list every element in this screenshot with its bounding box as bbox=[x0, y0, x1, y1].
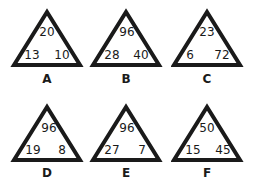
triangle-left-number: 27 bbox=[100, 144, 124, 156]
triangle-label: F bbox=[197, 167, 217, 179]
triangle-left-number: 13 bbox=[20, 49, 44, 61]
triangle-right-number: 8 bbox=[50, 144, 74, 156]
triangle-left-number: 28 bbox=[100, 49, 124, 61]
triangle-puzzle-c: 23 6 72 C bbox=[171, 0, 257, 94]
triangle-right-number: 72 bbox=[210, 49, 234, 61]
triangle-puzzle-f: 50 15 45 F bbox=[171, 95, 257, 189]
triangle-left-number: 6 bbox=[178, 49, 202, 61]
triangle-top-number: 96 bbox=[115, 26, 139, 38]
triangle-top-number: 96 bbox=[37, 122, 61, 134]
triangle-puzzle-a: 20 13 10 A bbox=[0, 0, 86, 94]
triangle-top-number: 20 bbox=[35, 26, 59, 38]
triangle-label: A bbox=[37, 73, 57, 85]
triangle-top-number: 96 bbox=[115, 122, 139, 134]
triangle-top-number: 50 bbox=[195, 122, 219, 134]
triangle-top-number: 23 bbox=[195, 26, 219, 38]
triangle-right-number: 40 bbox=[129, 49, 153, 61]
triangle-left-number: 19 bbox=[21, 144, 45, 156]
triangle-label: E bbox=[116, 167, 136, 179]
triangle-right-number: 10 bbox=[50, 49, 74, 61]
triangle-right-number: 45 bbox=[211, 144, 235, 156]
triangle-left-number: 15 bbox=[181, 144, 205, 156]
triangle-puzzle-d: 96 19 8 D bbox=[0, 95, 86, 189]
triangle-right-number: 7 bbox=[130, 144, 154, 156]
triangle-label: D bbox=[37, 167, 57, 179]
triangle-puzzle-b: 96 28 40 B bbox=[86, 0, 172, 94]
triangle-puzzle-e: 96 27 7 E bbox=[86, 95, 172, 189]
triangle-label: B bbox=[116, 73, 136, 85]
triangle-label: C bbox=[197, 73, 217, 85]
